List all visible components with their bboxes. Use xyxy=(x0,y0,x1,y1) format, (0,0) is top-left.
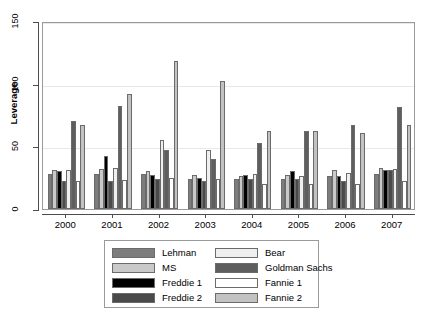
x-tick-2003 xyxy=(205,214,206,218)
legend-item-goldman-sachs[interactable]: Goldman Sachs xyxy=(215,260,333,275)
x-tick-2002 xyxy=(159,214,160,218)
legend-label: Fannie 1 xyxy=(265,278,302,288)
bar-fannie-2-2007 xyxy=(407,125,412,209)
legend-label: Goldman Sachs xyxy=(265,263,333,273)
x-tick-2007 xyxy=(392,214,393,218)
legend-column-left: LehmanMSFreddie 1Freddie 2 xyxy=(112,245,202,305)
y-tick-label-0: 0 xyxy=(10,196,20,222)
y-tick-100 xyxy=(33,85,38,86)
x-tick-label-2004: 2004 xyxy=(229,219,275,230)
x-tick-2006 xyxy=(345,214,346,218)
legend-swatch-icon xyxy=(112,263,155,273)
legend-label: MS xyxy=(162,263,176,273)
bar-fannie-2-2005 xyxy=(313,131,318,209)
y-tick-0 xyxy=(33,210,38,211)
bar-fannie-2-2001 xyxy=(127,94,132,209)
x-tick-label-2002: 2002 xyxy=(136,219,182,230)
legend-swatch-icon xyxy=(215,263,258,273)
legend-swatch-icon xyxy=(112,278,155,288)
legend-swatch-icon xyxy=(215,278,258,288)
legend-label: Freddie 2 xyxy=(162,293,202,303)
gridline-100 xyxy=(43,86,414,87)
legend: LehmanMSFreddie 1Freddie 2 BearGoldman S… xyxy=(104,240,319,308)
bar-fannie-2-2004 xyxy=(267,131,272,209)
bar-fannie-2-2006 xyxy=(360,133,365,209)
x-tick-label-2005: 2005 xyxy=(275,219,321,230)
bar-fannie-2-2003 xyxy=(220,81,225,209)
bar-fannie-2-2000 xyxy=(80,125,85,209)
x-tick-label-2006: 2006 xyxy=(322,219,368,230)
legend-item-fannie-1[interactable]: Fannie 1 xyxy=(215,275,333,290)
y-axis-line xyxy=(38,22,39,211)
legend-label: Freddie 1 xyxy=(162,278,202,288)
legend-label: Lehman xyxy=(162,248,196,258)
x-tick-label-2001: 2001 xyxy=(89,219,135,230)
gridline-50 xyxy=(43,148,414,149)
x-tick-label-2003: 2003 xyxy=(182,219,228,230)
y-tick-label-150: 150 xyxy=(10,8,20,34)
legend-swatch-icon xyxy=(215,248,258,258)
legend-item-fannie-2[interactable]: Fannie 2 xyxy=(215,290,333,305)
legend-swatch-icon xyxy=(112,293,155,303)
bar-fannie-2-2002 xyxy=(174,61,179,209)
x-tick-2000 xyxy=(65,214,66,218)
legend-swatch-icon xyxy=(112,248,155,258)
y-tick-label-50: 50 xyxy=(10,133,20,159)
x-axis-line xyxy=(42,214,415,215)
legend-item-freddie-1[interactable]: Freddie 1 xyxy=(112,275,202,290)
legend-swatch-icon xyxy=(215,293,258,303)
legend-column-right: BearGoldman SachsFannie 1Fannie 2 xyxy=(215,245,333,305)
x-tick-2001 xyxy=(112,214,113,218)
x-tick-2005 xyxy=(298,214,299,218)
legend-item-ms[interactable]: MS xyxy=(112,260,202,275)
legend-item-bear[interactable]: Bear xyxy=(215,245,333,260)
legend-item-freddie-2[interactable]: Freddie 2 xyxy=(112,290,202,305)
y-tick-50 xyxy=(33,147,38,148)
legend-item-lehman[interactable]: Lehman xyxy=(112,245,202,260)
x-tick-label-2007: 2007 xyxy=(369,219,415,230)
y-tick-150 xyxy=(33,22,38,23)
legend-label: Bear xyxy=(265,248,285,258)
legend-label: Fannie 2 xyxy=(265,293,302,303)
x-tick-label-2000: 2000 xyxy=(42,219,88,230)
gridline-150 xyxy=(43,23,414,24)
leverage-bar-chart: Leverage 050100150 200020012002200320042… xyxy=(0,0,423,317)
plot-area xyxy=(42,22,415,210)
x-tick-2004 xyxy=(252,214,253,218)
y-tick-label-100: 100 xyxy=(10,71,20,97)
